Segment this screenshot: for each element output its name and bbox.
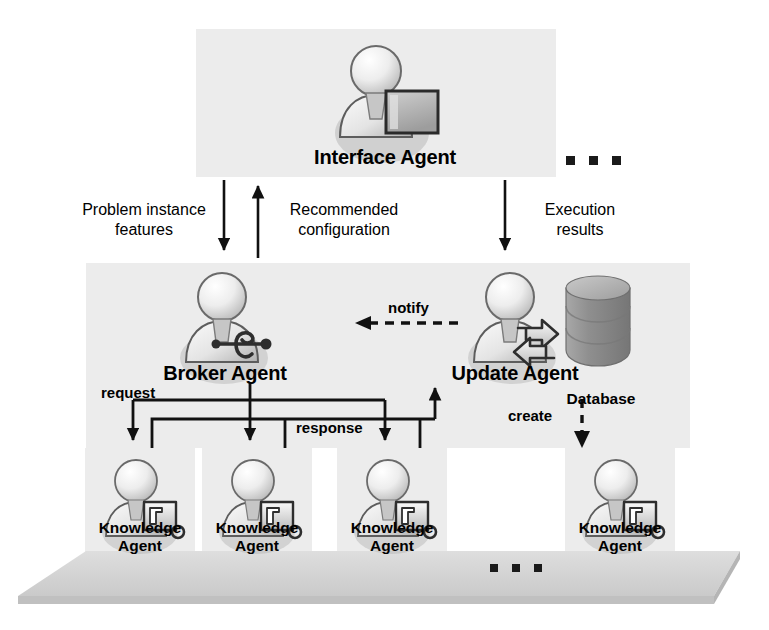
broker-agent-label: Broker Agent — [140, 362, 310, 384]
notify-label: notify — [388, 300, 429, 317]
knowledge-agent-label-1: Knowledge Agent — [80, 519, 200, 556]
interface-agent-ellipsis — [566, 156, 621, 165]
platform-slab — [18, 551, 740, 604]
diagram-canvas: Interface Agent Problem instance feature… — [0, 0, 769, 630]
knowledge-agent-label-3: Knowledge Agent — [332, 519, 452, 556]
notify-arrow — [355, 316, 458, 330]
database-label: Database — [548, 390, 654, 407]
interface-agent-label: Interface Agent — [250, 146, 520, 168]
update-agent-label: Update Agent — [430, 362, 600, 384]
execution-results-label: Execution results — [520, 200, 640, 239]
knowledge-agent-label-4: Knowledge Agent — [560, 519, 680, 556]
recommended-configuration-label: Recommended configuration — [268, 200, 420, 239]
problem-instance-features-label: Problem instance features — [68, 200, 220, 239]
knowledge-agent-label-2: Knowledge Agent — [197, 519, 317, 556]
response-label: response — [296, 420, 363, 437]
response-bus — [152, 388, 435, 448]
create-label: create — [508, 408, 552, 425]
database-cylinder-icon — [566, 276, 630, 366]
request-label: request — [101, 385, 155, 402]
knowledge-agent-ellipsis — [490, 564, 542, 572]
